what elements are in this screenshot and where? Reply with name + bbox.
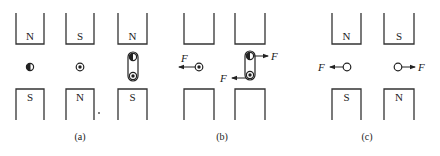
panel-c: N S S N F F (c) [317, 13, 425, 143]
coil-icon [245, 51, 255, 80]
wire-icon [394, 63, 402, 71]
pole-label: S [27, 91, 33, 103]
caption-b: (b) [216, 131, 228, 143]
pole-label: N [343, 30, 351, 42]
magnet-pole-b1-bottom [184, 89, 214, 120]
magnetic-force-diagram: N S N S N S (a) [0, 0, 440, 156]
magnet-pole-b2-bottom [235, 89, 265, 120]
wire-half-filled-icon [26, 63, 33, 70]
wire-current-out-icon [76, 63, 84, 71]
pole-label: N [76, 91, 84, 103]
coil-icon [128, 52, 138, 81]
force-label: F [180, 52, 188, 64]
pole-label: S [343, 91, 349, 103]
wire-current-out-icon [195, 63, 203, 71]
pole-label: N [129, 30, 137, 42]
stray-dot [98, 112, 100, 114]
caption-a: (a) [74, 131, 85, 143]
pole-label: N [26, 30, 34, 42]
pole-label: S [129, 91, 135, 103]
magnet-pole-b1-top [184, 13, 214, 44]
force-label: F [417, 61, 425, 73]
pole-label: N [395, 91, 403, 103]
caption-c: (c) [361, 131, 372, 143]
panel-a: N S N S N S (a) [16, 13, 147, 143]
force-label: F [317, 61, 325, 73]
wire-icon [343, 63, 351, 71]
panel-b: F F F (b) [179, 13, 278, 143]
magnet-pole-b2-top [235, 13, 265, 44]
force-label: F [270, 50, 278, 62]
force-label: F [219, 72, 227, 84]
pole-label: S [77, 30, 83, 42]
pole-label: S [396, 30, 402, 42]
